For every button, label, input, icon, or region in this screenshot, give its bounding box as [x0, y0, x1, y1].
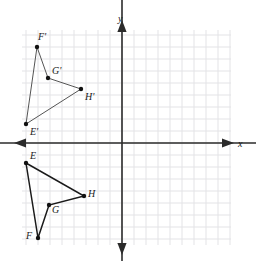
y-axis-down-arrowhead	[117, 243, 126, 255]
vertex-label-e-prime: E'	[30, 127, 38, 137]
vertex-dot-e-prime	[24, 122, 28, 126]
vertex-label-f-prime: F'	[38, 32, 46, 42]
preimage-vertex-dots	[24, 161, 86, 240]
vertex-dot-h-prime	[79, 87, 83, 91]
x-axis-label: x	[238, 139, 242, 149]
vertex-dot-f	[36, 236, 40, 240]
vertex-label-h: H	[88, 189, 95, 199]
vertex-dot-h	[82, 194, 86, 198]
x-axis-left-arrowhead	[14, 138, 26, 147]
vertex-dot-e	[24, 161, 28, 165]
vertex-label-g: G	[52, 205, 59, 215]
vertex-dot-g-prime	[46, 76, 50, 80]
y-axis-label: y	[118, 14, 122, 24]
vertex-dot-g	[47, 203, 51, 207]
vertex-label-g-prime: G'	[52, 66, 61, 76]
vertex-label-f: F	[26, 231, 32, 241]
vertex-label-e: E	[30, 151, 36, 161]
vertex-label-h-prime: H'	[85, 92, 94, 102]
coordinate-plane-figure: x y EFGHE'F'G'H'	[0, 0, 256, 261]
vertex-dot-f-prime	[35, 45, 39, 49]
x-axis-right-arrowhead	[222, 138, 234, 147]
